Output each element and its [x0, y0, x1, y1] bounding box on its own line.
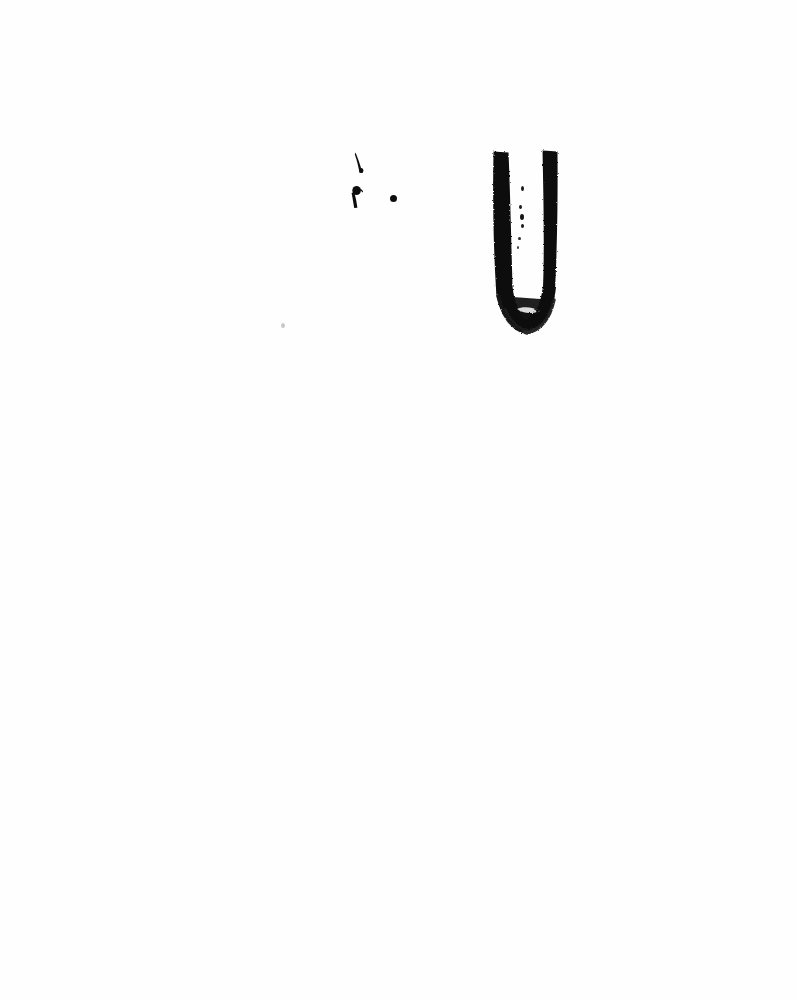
ink-layer — [0, 0, 796, 1000]
interior-speck — [521, 186, 524, 191]
tick-stroke-foot — [359, 168, 363, 173]
interior-speck — [520, 214, 524, 220]
interior-speck — [518, 237, 521, 240]
faint-speck — [281, 323, 285, 328]
glyph-u — [493, 151, 558, 334]
scanned-page: Scanned white page bearing a single larg… — [0, 0, 796, 1000]
comma-stroke — [352, 186, 363, 208]
interior-specks — [517, 186, 524, 249]
interior-speck — [519, 205, 522, 209]
tick-stroke — [355, 153, 364, 174]
interior-speck — [517, 246, 519, 249]
interior-speck — [521, 224, 524, 228]
round-dot — [390, 195, 397, 202]
